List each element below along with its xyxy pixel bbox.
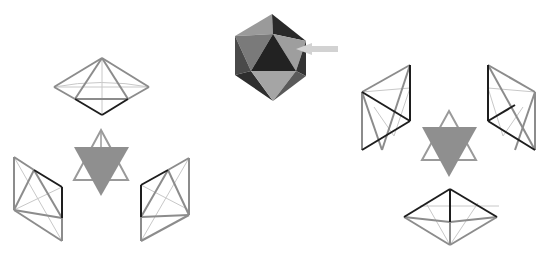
left-top-bipyramid	[54, 58, 149, 115]
right-top-right-bipyramid	[488, 65, 535, 150]
left-bottom-left-bipyramid	[14, 157, 62, 241]
left-star-tetrahedron	[74, 130, 129, 196]
diagram-canvas	[0, 0, 551, 259]
right-bottom-bipyramid	[404, 189, 499, 245]
right-top-left-bipyramid	[362, 65, 410, 150]
right-star-tetrahedron	[422, 111, 477, 177]
icosahedron	[235, 14, 306, 101]
left-bottom-right-bipyramid	[141, 158, 189, 241]
